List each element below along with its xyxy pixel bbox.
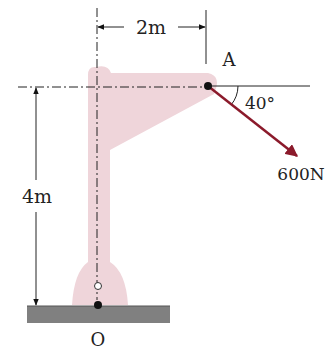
force-label: 600N (277, 164, 324, 184)
bracket-structure (72, 66, 217, 305)
diagram-canvas: 2m 4m 40° 600N A O (0, 0, 334, 362)
pin-hole-marker (95, 283, 102, 290)
angle-label: 40° (245, 93, 275, 113)
point-o-marker (94, 301, 102, 309)
dimension-2m-label: 2m (136, 16, 166, 38)
dimension-4m: 4m (22, 88, 52, 305)
dimension-4m-label: 4m (22, 185, 52, 207)
point-a-label: A (222, 49, 237, 70)
angle-arc (231, 86, 238, 105)
bracket-arm (72, 66, 217, 305)
point-a-marker (204, 82, 212, 90)
dimension-2m: 2m (98, 10, 206, 64)
point-o-label: O (91, 329, 106, 350)
